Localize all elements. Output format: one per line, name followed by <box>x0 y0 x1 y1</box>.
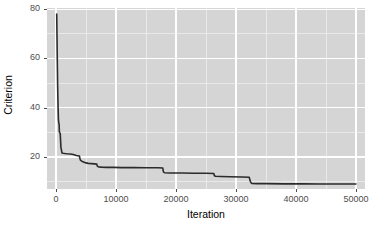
x-tick-label: 50000 <box>343 195 368 204</box>
y-axis-tick-labels: 20406080 <box>14 0 40 190</box>
y-tick-label: 40 <box>14 103 40 112</box>
y-tick-label: 60 <box>14 53 40 62</box>
x-tick-mark <box>176 189 177 192</box>
y-axis-title-text: Criterion <box>2 75 14 115</box>
x-axis-title: Iteration <box>47 208 365 220</box>
x-axis-tick-marks <box>0 189 376 193</box>
plot-area-svg <box>47 8 365 189</box>
y-tick-label: 20 <box>14 152 40 161</box>
plot-panel <box>47 8 365 189</box>
y-tick-label: 80 <box>14 4 40 13</box>
x-tick-label: 40000 <box>283 195 308 204</box>
x-tick-mark <box>356 189 357 192</box>
x-tick-label: 10000 <box>103 195 128 204</box>
x-tick-mark <box>116 189 117 192</box>
minor-gridlines <box>47 8 365 189</box>
x-tick-mark <box>236 189 237 192</box>
x-tick-label: 0 <box>53 195 58 204</box>
x-tick-mark <box>296 189 297 192</box>
x-tick-label: 20000 <box>163 195 188 204</box>
criterion-convergence-chart: Criterion 20406080 010000200003000040000… <box>0 0 376 229</box>
x-tick-mark <box>56 189 57 192</box>
x-axis-tick-labels: 01000020000300004000050000 <box>0 195 376 207</box>
x-tick-label: 30000 <box>223 195 248 204</box>
